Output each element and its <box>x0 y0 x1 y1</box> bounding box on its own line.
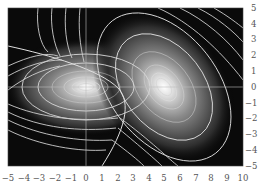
x-tick-label: 5 <box>161 173 166 183</box>
x-tick-label: 7 <box>193 173 198 183</box>
x-axis-ticks: −5 −4 −3 −2 −1 0 1 2 3 4 5 6 7 8 9 10 <box>2 173 249 183</box>
x-tick-label: 4 <box>146 173 151 183</box>
x-tick-label: 1 <box>99 173 104 183</box>
y-tick-label: 1 <box>251 66 256 76</box>
plot-area <box>4 0 263 189</box>
y-tick-label: 4 <box>251 19 256 29</box>
y-tick-label: −2 <box>245 113 258 123</box>
y-axis-ticks: 5 4 3 2 1 0 −1 −2 −3 −4 −5 <box>245 3 258 171</box>
x-tick-label: −5 <box>2 173 15 183</box>
y-tick-label: −3 <box>245 129 258 139</box>
x-tick-label: 6 <box>177 173 182 183</box>
y-tick-label: 2 <box>251 50 256 60</box>
y-tick-label: −5 <box>245 161 258 171</box>
x-tick-label: 10 <box>238 173 249 183</box>
x-tick-label: 0 <box>83 173 88 183</box>
y-tick-label: 3 <box>251 34 256 44</box>
x-tick-label: 2 <box>115 173 120 183</box>
x-tick-label: 3 <box>130 173 135 183</box>
x-tick-label: −2 <box>49 173 62 183</box>
x-tick-label: −3 <box>33 173 46 183</box>
x-tick-label: −1 <box>65 173 78 183</box>
y-tick-label: 5 <box>251 3 256 13</box>
x-tick-label: −4 <box>18 173 31 183</box>
y-tick-label: 0 <box>251 82 256 92</box>
y-tick-label: −1 <box>245 98 258 108</box>
y-tick-label: −4 <box>245 145 258 155</box>
chart: −5 −4 −3 −2 −1 0 1 2 3 4 5 6 7 8 9 10 5 … <box>0 0 263 189</box>
x-tick-label: 8 <box>208 173 213 183</box>
x-tick-label: 9 <box>224 173 229 183</box>
